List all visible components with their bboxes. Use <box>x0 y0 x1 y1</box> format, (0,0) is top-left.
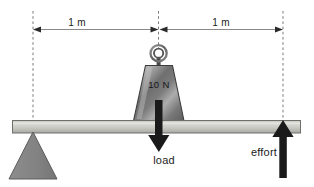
weight-value-label: 10 N <box>148 79 170 90</box>
dimension-left-arrowhead-start <box>33 27 41 33</box>
fulcrum-shape <box>9 132 57 179</box>
lever-diagram: 1 m 1 m 10 N load effort <box>0 0 314 187</box>
load-arrow-head <box>148 135 169 152</box>
effort-label: effort <box>251 146 277 158</box>
ring-inner <box>154 49 163 58</box>
dimension-right-arrowhead-end <box>275 27 283 33</box>
effort-arrow-shaft <box>279 134 287 178</box>
load-label: load <box>153 154 175 166</box>
dimension-left-arrowhead-end <box>151 27 159 33</box>
dimension-left <box>33 27 159 33</box>
dimension-right-arrowhead-start <box>160 27 168 33</box>
fulcrum-triangle <box>9 132 57 179</box>
dimension-right-label: 1 m <box>212 17 230 28</box>
dimension-left-label: 1 m <box>68 17 86 28</box>
load-arrow-shaft <box>155 100 163 138</box>
